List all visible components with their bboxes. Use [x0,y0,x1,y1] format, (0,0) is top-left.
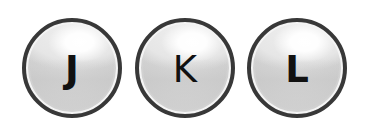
key-j-label: J [65,51,79,88]
key-button-row: J K L [0,0,365,131]
key-l-label: L [285,51,309,88]
key-j-button[interactable]: J [22,18,122,118]
key-k-button[interactable]: K [135,18,235,118]
key-l-button[interactable]: L [247,18,347,118]
key-k-label: K [173,51,197,88]
